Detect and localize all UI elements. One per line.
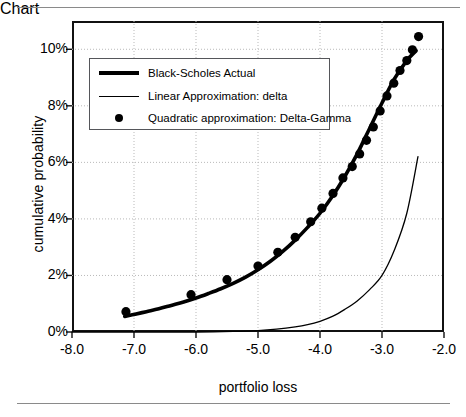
x-axis-tick-label: -3.0 xyxy=(352,341,412,357)
x-axis-tick-label: -2.0 xyxy=(414,341,466,357)
x-axis-tick-label: -5.0 xyxy=(228,341,288,357)
series-linear-approximation xyxy=(72,157,418,332)
thick-line-key-icon xyxy=(90,71,148,75)
legend-label: Linear Approximation: delta xyxy=(148,90,287,102)
legend-item-black-scholes-actual: Black-Scholes Actual xyxy=(90,61,329,85)
x-axis-tick-label: -8.0 xyxy=(42,341,102,357)
legend-label: Black-Scholes Actual xyxy=(148,67,255,79)
x-axis-title: portfolio loss xyxy=(72,379,444,395)
x-axis-tick-label: -4.0 xyxy=(290,341,350,357)
thin-line-key-icon xyxy=(90,96,148,97)
legend-item-linear-approximation: Linear Approximation: delta xyxy=(90,84,329,108)
legend-label: Quadratic approximation: Delta-Gamma xyxy=(148,112,351,124)
x-axis-tick-label: -7.0 xyxy=(104,341,164,357)
legend-item-quadratic-approximation: Quadratic approximation: Delta-Gamma xyxy=(90,106,329,130)
figure: 0%2%4%6%8%10% -8.0-7.0-6.0-5.0-4.0-3.0-2… xyxy=(0,0,466,417)
x-axis-tick-label: -6.0 xyxy=(166,341,226,357)
y-axis-title: cumulative probability xyxy=(30,54,46,314)
dot-marker-key-icon xyxy=(90,114,148,122)
chart-legend: Black-Scholes Actual Linear Approximatio… xyxy=(89,58,330,130)
y-axis-tick-label: 0% xyxy=(16,323,68,339)
